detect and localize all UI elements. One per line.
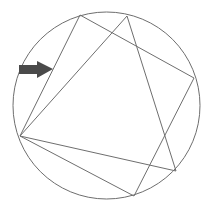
background: [0, 0, 211, 210]
geometry-diagram: [0, 0, 211, 210]
